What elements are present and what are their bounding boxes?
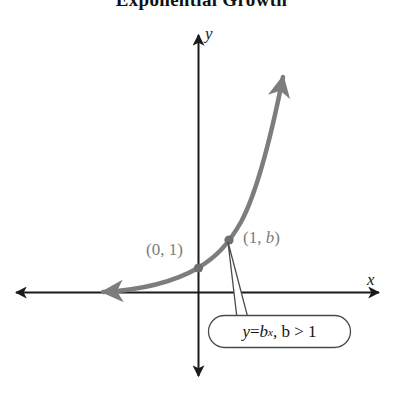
callout-equals: = <box>250 322 260 342</box>
exponential-curve <box>103 77 283 292</box>
point-label-0-1: (0, 1) <box>146 240 183 260</box>
point-label-1-b-suffix: ) <box>274 228 280 247</box>
point-label-1-b: (1, b) <box>243 228 280 248</box>
point-label-1-b-base: b <box>266 228 275 247</box>
callout-base: b <box>260 322 269 342</box>
point-marker-0-1 <box>194 263 203 272</box>
point-label-1-b-prefix: (1, <box>243 228 266 247</box>
y-axis-label: y <box>205 24 213 44</box>
exponential-growth-figure: Exponential Growth y x (0, 1) (1, b) y =… <box>0 0 403 397</box>
callout-y: y <box>242 322 250 342</box>
equation-callout: y = bx, b > 1 <box>208 315 351 348</box>
point-marker-1-b <box>224 235 233 244</box>
callout-condition: , b > 1 <box>273 322 317 342</box>
x-axis-label: x <box>367 270 375 290</box>
callout-pointer <box>228 242 248 318</box>
